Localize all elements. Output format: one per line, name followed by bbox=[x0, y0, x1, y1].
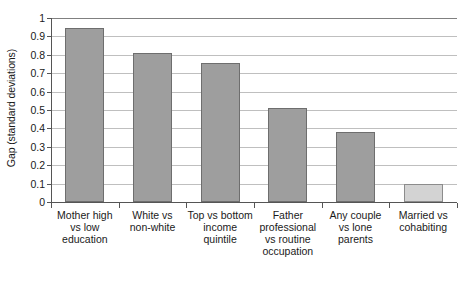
bars-layer bbox=[51, 18, 457, 203]
y-axis-tick-mark bbox=[47, 73, 51, 74]
y-axis-tick-label: 0.7 bbox=[30, 68, 45, 78]
y-axis-tick-label: 1 bbox=[39, 13, 45, 23]
category-label: Top vs bottomincomequintile bbox=[186, 209, 254, 245]
y-axis-tick-mark bbox=[47, 55, 51, 56]
y-axis-tick-label: 0.2 bbox=[30, 160, 45, 170]
bar bbox=[404, 184, 443, 202]
category-label: Any couplevs loneparents bbox=[322, 209, 390, 245]
category-label-line: vs routine bbox=[254, 233, 322, 245]
category-tick-mark bbox=[119, 203, 120, 208]
category-label: White vsnon-white bbox=[119, 209, 187, 233]
y-axis-tick-label: 0.3 bbox=[30, 142, 45, 152]
bar bbox=[336, 132, 375, 202]
category-label: Fatherprofessionalvs routineoccupation bbox=[254, 209, 322, 257]
y-axis-tick-mark bbox=[47, 184, 51, 185]
bar-chart-figure: Gap (standard deviations) 10.90.80.70.60… bbox=[0, 0, 473, 281]
x-axis-category-labels: Mother highvs loweducationWhite vsnon-wh… bbox=[51, 209, 457, 277]
y-axis-tick-mark bbox=[47, 110, 51, 111]
category-label: Mother highvs loweducation bbox=[51, 209, 119, 245]
y-axis-tick-labels: 10.90.80.70.60.50.40.30.20.10 bbox=[20, 0, 48, 203]
y-axis-tick-label: 0 bbox=[39, 197, 45, 207]
y-axis-title: Gap (standard deviations) bbox=[0, 0, 22, 215]
category-tick-mark bbox=[322, 203, 323, 208]
y-axis-tick-label: 0.1 bbox=[30, 179, 45, 189]
y-axis-tick-mark bbox=[47, 128, 51, 129]
y-axis-tick-mark bbox=[47, 18, 51, 19]
y-axis-tick-label: 0.9 bbox=[30, 31, 45, 41]
category-label-line: education bbox=[51, 233, 119, 245]
category-label-line: Father bbox=[254, 209, 322, 221]
category-label-line: professional bbox=[254, 221, 322, 233]
category-label-line: non-white bbox=[119, 221, 187, 233]
category-tick-mark bbox=[457, 203, 458, 208]
category-tick-mark bbox=[254, 203, 255, 208]
y-axis-tick-mark bbox=[47, 36, 51, 37]
category-label-line: quintile bbox=[186, 233, 254, 245]
category-label-line: vs low bbox=[51, 221, 119, 233]
y-axis-tick-label: 0.4 bbox=[30, 123, 45, 133]
category-label-line: cohabiting bbox=[389, 221, 457, 233]
category-label-line: parents bbox=[322, 233, 390, 245]
category-label: Married vscohabiting bbox=[389, 209, 457, 233]
category-label-line: income bbox=[186, 221, 254, 233]
bar bbox=[201, 63, 240, 202]
y-axis-tick-label: 0.5 bbox=[30, 105, 45, 115]
category-label-line: Any couple bbox=[322, 209, 390, 221]
category-tick-mark bbox=[389, 203, 390, 208]
category-label-line: occupation bbox=[254, 245, 322, 257]
bar bbox=[65, 28, 104, 202]
y-axis-tick-mark bbox=[47, 147, 51, 148]
y-axis-tick-label: 0.8 bbox=[30, 50, 45, 60]
category-tick-mark bbox=[51, 203, 52, 208]
y-axis-tick-mark bbox=[47, 165, 51, 166]
bar bbox=[133, 53, 172, 202]
y-axis-tick-label: 0.6 bbox=[30, 87, 45, 97]
plot-area bbox=[51, 18, 457, 203]
category-label-line: Mother high bbox=[51, 209, 119, 221]
category-tick-mark bbox=[186, 203, 187, 208]
category-label-line: vs lone bbox=[322, 221, 390, 233]
y-axis-tick-mark bbox=[47, 92, 51, 93]
category-label-line: White vs bbox=[119, 209, 187, 221]
y-axis-title-text: Gap (standard deviations) bbox=[5, 48, 17, 166]
category-label-line: Top vs bottom bbox=[186, 209, 254, 221]
bar bbox=[268, 108, 307, 202]
category-label-line: Married vs bbox=[389, 209, 457, 221]
category-tick-marks bbox=[51, 203, 457, 208]
